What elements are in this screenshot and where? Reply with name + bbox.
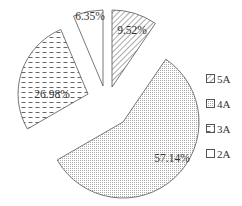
slice-label-3a: 26.98% [34, 88, 70, 100]
legend-swatch-blank-icon [206, 149, 215, 158]
pie-slice-3a [18, 30, 88, 130]
legend-item-5a: 5A [206, 73, 242, 85]
legend-swatch-dots-icon [206, 99, 215, 108]
slice-label-5a: 9.52% [117, 24, 147, 36]
legend-item-2a: 2A [206, 148, 242, 160]
legend-item-3a: 3A [206, 123, 242, 135]
legend-item-4a: 4A [206, 98, 242, 110]
pie-slice-5a [112, 10, 155, 87]
slice-label-2a: 6.35% [75, 10, 105, 22]
slice-label-4a: 57.14% [154, 152, 190, 164]
legend-swatch-diagonal-icon [206, 74, 215, 83]
legend-swatch-dashes-icon [206, 124, 215, 133]
